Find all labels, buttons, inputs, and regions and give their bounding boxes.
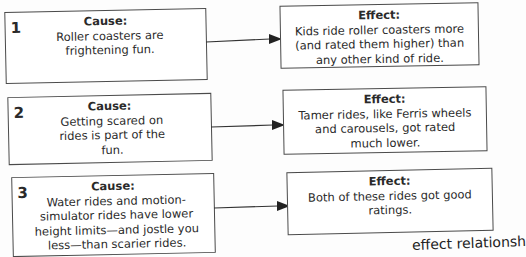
- effect-text-1: Kids ride roller coasters more (and rate…: [281, 21, 479, 68]
- cause-text-2: Getting scared on rides is part of the f…: [9, 111, 212, 159]
- cause-box-2: 2 Cause: Getting scared on rides is part…: [7, 93, 212, 165]
- row-number-1: 1: [10, 21, 21, 36]
- effect-text-2: Tamer rides, like Ferris wheels and caro…: [284, 105, 487, 152]
- cause-text-3: Water rides and motion-simulator rides h…: [13, 191, 215, 253]
- effect-text-3: Both of these rides got good ratings.: [288, 186, 493, 219]
- effect-box-1: Effect: Kids ride roller coasters more (…: [279, 2, 479, 68]
- cause-text-1: Roller coasters are frightening fun.: [6, 26, 207, 59]
- effect-box-2: Effect: Tamer rides, like Ferris wheels …: [282, 86, 487, 155]
- row-number-2: 2: [13, 106, 24, 121]
- arrow-icon-2: [211, 118, 285, 132]
- cause-box-1: 1 Cause: Roller coasters are frightening…: [4, 8, 207, 84]
- row-number-3: 3: [17, 186, 28, 201]
- footer-text-fragment: effect relationsh: [412, 233, 526, 253]
- cause-box-3: 3 Cause: Water rides and motion-simulato…: [11, 173, 216, 257]
- arrow-icon-3: [214, 199, 290, 213]
- effect-box-3: Effect: Both of these rides got good rat…: [286, 168, 493, 235]
- arrow-icon-1: [206, 33, 282, 47]
